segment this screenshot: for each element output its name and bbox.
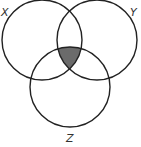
venn-svg: X Y Z: [0, 0, 141, 147]
label-x: X: [0, 6, 9, 19]
label-y: Y: [130, 6, 138, 19]
circle-x: [2, 0, 82, 80]
venn-diagram: X Y Z: [0, 0, 141, 147]
label-z: Z: [65, 132, 74, 145]
circle-y: [57, 0, 137, 80]
